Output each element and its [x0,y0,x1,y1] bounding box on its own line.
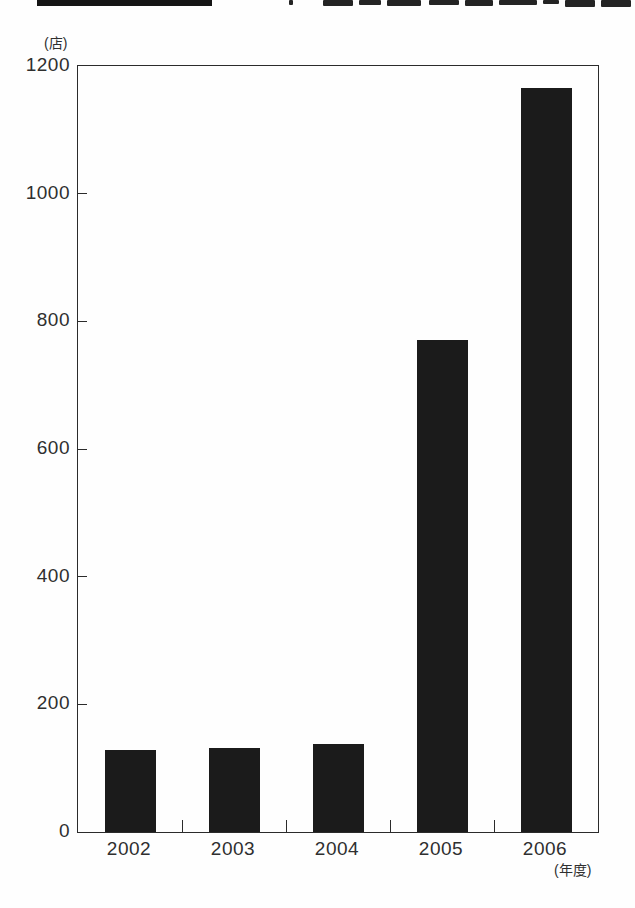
x-tick-label: 2003 [198,838,268,860]
y-tick-label: 200 [14,692,70,714]
y-axis-unit-label: (店) [44,32,67,52]
y-tick-mark [78,449,87,450]
y-tick-label: 1000 [14,182,70,204]
y-tick-label: 1200 [14,54,70,76]
plot-area [77,65,599,833]
bar-2005 [417,340,468,832]
x-tick-mark [390,820,391,832]
y-tick-label: 400 [14,565,70,587]
y-tick-label: 600 [14,437,70,459]
scanned-chart-page: (店) (年度) 020040060080010001200 200220032… [0,0,635,908]
x-tick-mark [494,820,495,832]
x-tick-mark [286,820,287,832]
y-tick-label: 0 [14,820,70,842]
y-tick-label: 800 [14,309,70,331]
y-tick-mark [78,576,87,577]
y-tick-mark [78,193,87,194]
bar-2004 [313,744,364,832]
x-tick-label: 2006 [510,838,580,860]
y-tick-mark [78,321,87,322]
x-tick-mark [182,820,183,832]
y-tick-mark [78,704,87,705]
x-axis-unit-label: (年度) [554,859,591,879]
bar-2003 [209,748,260,832]
bar-2006 [521,88,572,832]
x-tick-label: 2004 [302,838,372,860]
x-tick-label: 2002 [94,838,164,860]
figure-badge [37,0,212,6]
x-tick-label: 2005 [406,838,476,860]
bar-2002 [105,750,156,832]
